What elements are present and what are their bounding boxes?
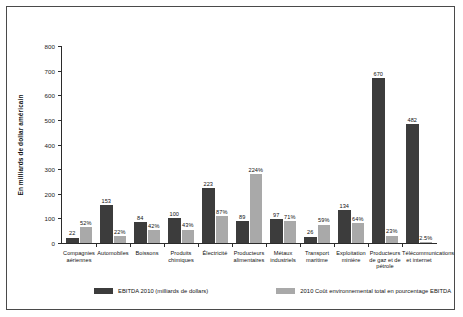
bar-value-label-ebitda: 223 bbox=[204, 181, 213, 187]
bar-ebitda[interactable] bbox=[134, 222, 147, 243]
bar-value-label-env-cost: 2.5% bbox=[419, 235, 432, 241]
bar-env-cost[interactable] bbox=[284, 221, 297, 243]
x-axis-category-label: Producteurs de gaz et de pétrole bbox=[368, 250, 402, 270]
bar-value-label-env-cost: 71% bbox=[284, 214, 295, 220]
legend-item-env-cost: 2010 Coût environnemental total en pourc… bbox=[276, 288, 451, 294]
bar-value-label-env-cost: 224% bbox=[248, 167, 263, 173]
chart-legend: EBITDA 2010 (milliards de dollars) 2010 … bbox=[62, 285, 438, 297]
x-axis-tick-mark bbox=[266, 243, 267, 247]
bar-value-label-ebitda: 26 bbox=[307, 229, 313, 235]
bar-group: 10043% bbox=[164, 46, 198, 243]
y-axis-tick-label: 600 bbox=[44, 92, 55, 99]
bar-value-label-ebitda: 84 bbox=[137, 215, 143, 221]
bar-ebitda[interactable] bbox=[304, 237, 317, 243]
bar-value-label-env-cost: 23% bbox=[386, 228, 397, 234]
y-axis-tick-label: 500 bbox=[44, 116, 55, 123]
y-axis-tick-label: 300 bbox=[44, 166, 55, 173]
bar-env-cost[interactable] bbox=[250, 174, 263, 243]
bar-group: 15322% bbox=[96, 46, 130, 243]
bar-env-cost[interactable] bbox=[420, 242, 433, 243]
bar-group: 89224% bbox=[232, 46, 266, 243]
x-axis-category-label: Produits chimiques bbox=[164, 250, 198, 263]
y-axis-tick-label: 100 bbox=[44, 215, 55, 222]
legend-swatch-ebitda bbox=[94, 288, 113, 294]
bar-value-label-ebitda: 670 bbox=[374, 71, 383, 77]
bar-group: 2252% bbox=[62, 46, 96, 243]
bar-ebitda[interactable] bbox=[372, 78, 385, 243]
legend-label-ebitda: EBITDA 2010 (milliards de dollars) bbox=[118, 288, 208, 294]
bar-value-label-ebitda: 100 bbox=[170, 211, 179, 217]
legend-label-env-cost: 2010 Coût environnemental total en pourc… bbox=[300, 288, 451, 294]
y-axis-tick-label: 700 bbox=[44, 67, 55, 74]
bar-value-label-ebitda: 482 bbox=[408, 117, 417, 123]
bar-value-label-env-cost: 43% bbox=[182, 222, 193, 228]
bar-value-label-env-cost: 64% bbox=[352, 216, 363, 222]
x-axis-category-label: Métaux industriels bbox=[266, 250, 300, 263]
bar-env-cost[interactable] bbox=[386, 236, 399, 243]
bar-group: 9771% bbox=[266, 46, 300, 243]
bar-group: 67023% bbox=[368, 46, 402, 243]
y-axis-label: En milliards de dollar américain bbox=[14, 46, 26, 244]
chart-screenshot: En milliards de dollar américain 0100200… bbox=[0, 0, 463, 317]
x-axis-category-label: Boissons bbox=[130, 250, 164, 257]
x-axis-tick-mark bbox=[300, 243, 301, 247]
x-axis-category-label: Transport maritime bbox=[300, 250, 334, 263]
bar-ebitda[interactable] bbox=[406, 124, 419, 243]
y-axis-tick-label: 800 bbox=[44, 43, 55, 50]
bar-value-label-env-cost: 59% bbox=[318, 217, 329, 223]
bar-ebitda[interactable] bbox=[66, 238, 79, 243]
x-axis-category-label: Compagnies aériennes bbox=[62, 250, 96, 263]
bar-value-label-ebitda: 22 bbox=[69, 230, 75, 236]
bar-env-cost[interactable] bbox=[80, 227, 93, 243]
bar-group: 13464% bbox=[334, 46, 368, 243]
bar-group: 4822.5% bbox=[402, 46, 436, 243]
bar-group: 2659% bbox=[300, 46, 334, 243]
bar-value-label-ebitda: 89 bbox=[239, 214, 245, 220]
bar-group: 22387% bbox=[198, 46, 232, 243]
bar-env-cost[interactable] bbox=[352, 223, 365, 243]
bar-ebitda[interactable] bbox=[236, 221, 249, 243]
x-axis-tick-mark bbox=[402, 243, 403, 247]
bar-env-cost[interactable] bbox=[318, 225, 331, 243]
x-axis-tick-mark bbox=[96, 243, 97, 247]
x-axis-tick-mark bbox=[368, 243, 369, 247]
plot-area: 0100200300400500600700800 2252%15322%844… bbox=[62, 46, 436, 243]
x-axis-tick-mark bbox=[334, 243, 335, 247]
x-axis-tick-mark bbox=[130, 243, 131, 247]
bar-chart: En milliards de dollar américain 0100200… bbox=[0, 0, 463, 317]
bar-group: 8442% bbox=[130, 46, 164, 243]
legend-swatch-env-cost bbox=[276, 288, 295, 294]
x-axis-category-label: Automobiles bbox=[96, 250, 130, 257]
x-axis-line bbox=[61, 243, 437, 244]
bar-value-label-env-cost: 42% bbox=[148, 223, 159, 229]
bar-value-label-env-cost: 22% bbox=[114, 229, 125, 235]
bar-value-label-env-cost: 52% bbox=[80, 220, 91, 226]
bar-value-label-env-cost: 87% bbox=[216, 209, 227, 215]
x-axis-category-label: Producteurs alimentaires bbox=[232, 250, 266, 263]
x-axis-category-label: Électricité bbox=[198, 250, 232, 257]
x-axis-tick-mark bbox=[198, 243, 199, 247]
x-axis-category-label: Exploitation minière bbox=[334, 250, 368, 263]
bar-value-label-ebitda: 153 bbox=[102, 198, 111, 204]
bar-value-label-ebitda: 97 bbox=[273, 212, 279, 218]
bar-ebitda[interactable] bbox=[100, 205, 113, 243]
bar-ebitda[interactable] bbox=[202, 188, 215, 243]
bar-ebitda[interactable] bbox=[338, 210, 351, 243]
legend-item-ebitda: EBITDA 2010 (milliards de dollars) bbox=[94, 288, 208, 294]
bar-env-cost[interactable] bbox=[114, 236, 127, 243]
x-axis-category-label: Télécommunications et internet bbox=[402, 250, 436, 263]
y-axis-tick-label: 0 bbox=[51, 240, 55, 247]
y-axis-tick-mark bbox=[58, 243, 62, 244]
y-axis-tick-label: 400 bbox=[44, 141, 55, 148]
bar-value-label-ebitda: 134 bbox=[340, 203, 349, 209]
bar-ebitda[interactable] bbox=[270, 219, 283, 243]
bar-env-cost[interactable] bbox=[182, 230, 195, 243]
bar-env-cost[interactable] bbox=[148, 230, 161, 243]
bar-ebitda[interactable] bbox=[168, 218, 181, 243]
x-axis-tick-mark bbox=[164, 243, 165, 247]
y-axis-tick-label: 200 bbox=[44, 190, 55, 197]
x-axis-tick-mark bbox=[232, 243, 233, 247]
bar-env-cost[interactable] bbox=[216, 216, 229, 243]
